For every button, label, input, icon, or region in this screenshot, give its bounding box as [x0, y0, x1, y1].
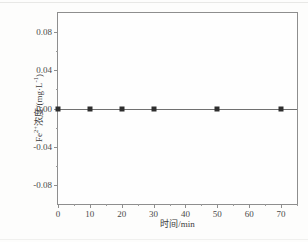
y-axis-minor-tick [56, 166, 58, 167]
y-axis-tick [54, 70, 58, 71]
y-axis-exponent: -1 [32, 77, 39, 82]
y-axis-text: 浓度/(mg·L [34, 83, 44, 127]
x-axis-tick-label: 30 [149, 210, 158, 219]
x-axis-tick [185, 204, 186, 208]
x-axis-tick-label: 70 [277, 210, 286, 219]
x-axis-title: 时间/min [57, 220, 298, 229]
y-axis-tick [54, 32, 58, 33]
y-axis-minor-tick [56, 128, 58, 129]
x-axis-minor-tick [233, 204, 234, 206]
x-axis-tick [281, 204, 282, 208]
y-axis-tick-label: 0.08 [36, 28, 52, 37]
data-point-marker [56, 106, 61, 111]
chart-figure: 0102030405060700.080.040.00-0.04-0.08 时间… [0, 0, 308, 242]
data-point-marker [151, 106, 156, 111]
x-axis-tick-label: 50 [213, 210, 222, 219]
x-axis-minor-tick [265, 204, 266, 206]
data-layer: 0102030405060700.080.040.00-0.04-0.08 [58, 13, 297, 204]
x-axis-minor-tick [106, 204, 107, 206]
x-axis-tick-label: 60 [245, 210, 254, 219]
x-axis-tick [58, 204, 59, 208]
x-axis-tick [122, 204, 123, 208]
data-point-marker [279, 106, 284, 111]
y-axis-tick-label: -0.04 [33, 142, 52, 151]
x-axis-tick-label: 10 [85, 210, 94, 219]
x-axis-minor-tick [297, 204, 298, 206]
x-axis-tick [90, 204, 91, 208]
x-axis-tick [249, 204, 250, 208]
x-axis-tick [217, 204, 218, 208]
y-axis-minor-tick [56, 51, 58, 52]
x-axis-tick-label: 40 [181, 210, 190, 219]
x-axis-minor-tick [170, 204, 171, 206]
series-line [58, 109, 297, 110]
y-axis-charge: 2+ [32, 126, 39, 133]
data-point-marker [87, 106, 92, 111]
y-axis-species: Fe [34, 133, 44, 142]
data-point-marker [215, 106, 220, 111]
x-axis-tick-label: 20 [117, 210, 126, 219]
y-axis-title: Fe2+浓度/(mg·L-1) [35, 74, 44, 142]
x-axis-minor-tick [138, 204, 139, 206]
y-axis-tick [54, 185, 58, 186]
y-axis-tick [54, 147, 58, 148]
y-axis-close-paren: ) [34, 74, 44, 77]
x-axis-tick [154, 204, 155, 208]
x-axis-tick-label: 0 [56, 210, 61, 219]
plot-area: 0102030405060700.080.040.00-0.04-0.08 [57, 12, 298, 205]
y-axis-minor-tick [56, 89, 58, 90]
x-axis-minor-tick [74, 204, 75, 206]
data-point-marker [119, 106, 124, 111]
y-axis-tick-label: -0.08 [33, 180, 52, 189]
x-axis-minor-tick [201, 204, 202, 206]
